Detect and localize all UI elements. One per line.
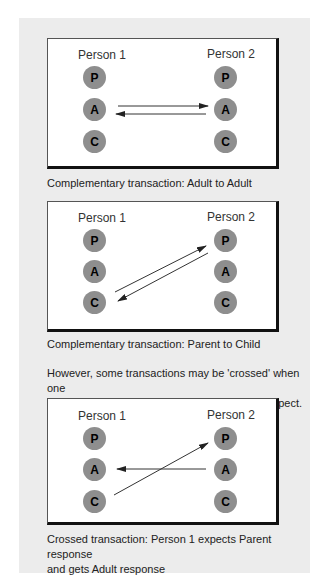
caption-parent-to-child: Complementary transaction: Parent to Chi… bbox=[47, 337, 297, 352]
caption-line-1: Crossed transaction: Person 1 expects Pa… bbox=[47, 532, 307, 562]
person2-adult-circle: A bbox=[214, 260, 237, 283]
person2-parent-circle: P bbox=[214, 427, 237, 450]
person1-adult-circle: A bbox=[83, 98, 106, 121]
caption-line-2: and gets Adult response bbox=[47, 562, 307, 577]
person1-adult-circle: A bbox=[83, 260, 106, 283]
person1-parent-circle: P bbox=[83, 427, 106, 450]
person2-child-circle: C bbox=[214, 490, 237, 513]
person2-child-circle: C bbox=[214, 130, 237, 153]
person2-parent-circle: P bbox=[214, 229, 237, 252]
intro-line-1: However, some transactions may be 'cross… bbox=[47, 366, 307, 396]
person1-label: Person 1 bbox=[78, 211, 126, 225]
person2-parent-circle: P bbox=[214, 66, 237, 89]
panel-parent-to-child: Person 1 Person 2 P A C P A C bbox=[47, 201, 279, 332]
person2-adult-circle: A bbox=[214, 458, 237, 481]
person1-label: Person 1 bbox=[78, 48, 126, 62]
person1-label: Person 1 bbox=[78, 409, 126, 423]
arrow-p2p-to-p1c bbox=[118, 253, 208, 301]
arrow-p1c-to-p2p bbox=[115, 246, 206, 292]
panel-adult-to-adult: Person 1 Person 2 P A C P A C bbox=[47, 38, 279, 169]
panel-crossed-transaction: Person 1 Person 2 P A C P A C bbox=[47, 398, 279, 525]
person1-child-circle: C bbox=[83, 490, 106, 513]
caption-crossed-transaction: Crossed transaction: Person 1 expects Pa… bbox=[47, 532, 307, 577]
person2-label: Person 2 bbox=[207, 408, 255, 422]
person2-label: Person 2 bbox=[207, 210, 255, 224]
caption-adult-to-adult: Complementary transaction: Adult to Adul… bbox=[47, 176, 297, 191]
person2-label: Person 2 bbox=[207, 47, 255, 61]
person1-parent-circle: P bbox=[83, 66, 106, 89]
person1-adult-circle: A bbox=[83, 458, 106, 481]
person2-adult-circle: A bbox=[214, 98, 237, 121]
person1-parent-circle: P bbox=[83, 229, 106, 252]
person1-child-circle: C bbox=[83, 291, 106, 314]
person1-child-circle: C bbox=[83, 130, 106, 153]
person2-child-circle: C bbox=[214, 291, 237, 314]
